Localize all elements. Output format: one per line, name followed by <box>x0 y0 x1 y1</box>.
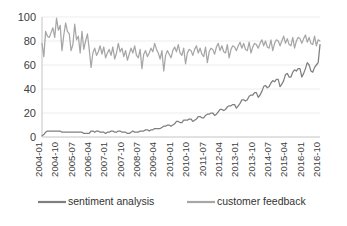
y-tick-label: 100 <box>18 11 36 23</box>
x-tick-label: 2007-01 <box>98 142 109 177</box>
x-tick-label: 2005-07 <box>66 142 77 177</box>
x-tick-label: 2010-10 <box>180 142 191 177</box>
chart-legend: sentiment analysiscustomer feedback <box>38 195 306 207</box>
x-tick-label: 2006-04 <box>82 142 93 177</box>
y-tick-label: 40 <box>24 83 36 95</box>
legend-label-sentiment-analysis[interactable]: sentiment analysis <box>68 195 154 207</box>
x-tick-label: 2011-07 <box>197 142 208 176</box>
x-tick-label: 2004-10 <box>49 142 60 177</box>
y-axis-tick-labels: 020406080100 <box>18 11 36 143</box>
x-tick-label: 2010-01 <box>164 142 175 177</box>
line-chart: 020406080100 2004-012004-102005-072006-0… <box>0 0 347 226</box>
y-tick-label: 20 <box>24 107 36 119</box>
x-axis-tick-labels: 2004-012004-102005-072006-042007-012007-… <box>33 142 322 177</box>
x-tick-label: 2013-01 <box>229 142 240 177</box>
x-tick-label: 2016-10 <box>311 142 322 177</box>
chart-container: 020406080100 2004-012004-102005-072006-0… <box>0 0 347 226</box>
x-tick-label: 2007-10 <box>115 142 126 177</box>
x-tick-label: 2015-04 <box>278 142 289 177</box>
series-line-customer-feedback <box>42 18 320 71</box>
y-tick-label: 60 <box>24 59 36 71</box>
y-tick-label: 80 <box>24 35 36 47</box>
x-tick-label: 2014-07 <box>262 142 273 177</box>
x-tick-label: 2012-04 <box>213 142 224 177</box>
x-tick-label: 2009-04 <box>147 142 158 177</box>
x-tick-label: 2013-10 <box>246 142 257 177</box>
series-lines <box>42 18 320 136</box>
x-tick-label: 2016-01 <box>295 142 306 177</box>
x-tick-label: 2008-07 <box>131 142 142 177</box>
y-tick-label: 0 <box>30 131 36 143</box>
legend-label-customer-feedback[interactable]: customer feedback <box>217 195 306 207</box>
x-tick-label: 2004-01 <box>33 142 44 177</box>
gridlines <box>42 17 320 137</box>
series-line-sentiment-analysis <box>42 45 320 136</box>
